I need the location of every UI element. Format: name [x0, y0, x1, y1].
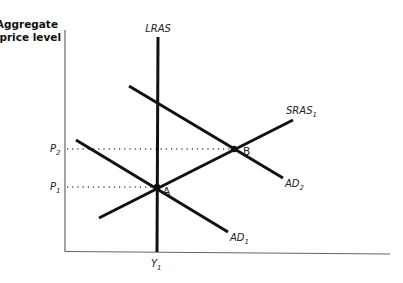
y-axis-title-line1: Aggregate	[0, 18, 58, 30]
ad2-label: AD2	[284, 178, 305, 192]
equilibrium-point-a	[154, 184, 160, 190]
p2-tick-label: P2	[50, 143, 61, 157]
lras-curve	[157, 37, 158, 252]
equilibrium-point-b	[231, 146, 237, 152]
sras1-label: SRAS1	[286, 105, 317, 119]
point-b-label: B	[243, 145, 250, 157]
ad1-curve	[76, 140, 228, 232]
ad-as-diagram: Aggregate price level LRAS SRAS1 AD2 AD1…	[0, 0, 403, 283]
lras-label: LRAS	[145, 23, 171, 34]
ad1-label: AD1	[229, 232, 249, 246]
sras1-curve	[99, 120, 293, 218]
x-axis	[65, 252, 390, 255]
y-axis-title-line2: price level	[0, 31, 61, 43]
y1-tick-label: Y1	[151, 258, 162, 272]
point-a-label: A	[163, 185, 171, 197]
p1-tick-label: P1	[50, 181, 61, 195]
